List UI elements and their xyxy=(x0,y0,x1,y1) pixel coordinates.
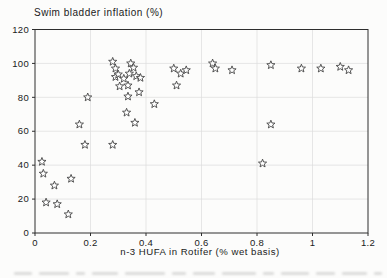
cropped-caption-artifact xyxy=(14,271,381,276)
data-point-star xyxy=(267,120,275,128)
data-point-star xyxy=(64,210,72,218)
data-point-star xyxy=(67,174,75,182)
figure-scan: Swim bladder inflation (%) 00.20.40.60.8… xyxy=(0,0,387,278)
data-point-star xyxy=(120,74,128,82)
x-axis-label: n-3 HUFA in Rotifer (% wet basis) xyxy=(16,246,384,257)
data-point-star xyxy=(122,108,130,116)
data-point-star xyxy=(150,100,158,108)
data-point-star xyxy=(228,66,236,74)
y-tick-label: 60 xyxy=(18,125,29,136)
scatter-plot: 00.20.40.60.811.2020406080100120 xyxy=(0,0,387,278)
data-point-star xyxy=(38,157,46,165)
data-point-star xyxy=(297,64,305,72)
data-point-star xyxy=(317,64,325,72)
y-tick-label: 120 xyxy=(12,24,29,35)
data-point-star xyxy=(109,141,117,149)
y-tick-label: 100 xyxy=(12,58,29,69)
data-point-star xyxy=(53,200,61,208)
data-point-star xyxy=(172,81,180,89)
data-point-star xyxy=(267,61,275,69)
data-point-star xyxy=(50,181,58,189)
data-point-star xyxy=(258,159,266,167)
data-point-star xyxy=(39,169,47,177)
data-point-star xyxy=(116,82,124,90)
data-point-star xyxy=(135,88,143,96)
data-point-star xyxy=(170,64,178,72)
data-point-star xyxy=(75,120,83,128)
data-point-star xyxy=(131,118,139,126)
y-tick-label: 80 xyxy=(18,92,29,103)
data-point-star xyxy=(344,66,352,74)
data-point-star xyxy=(124,81,132,89)
data-point-star xyxy=(124,92,132,100)
data-point-star xyxy=(81,141,89,149)
y-tick-label: 20 xyxy=(18,193,29,204)
y-tick-label: 0 xyxy=(23,227,29,238)
y-tick-label: 40 xyxy=(18,159,29,170)
